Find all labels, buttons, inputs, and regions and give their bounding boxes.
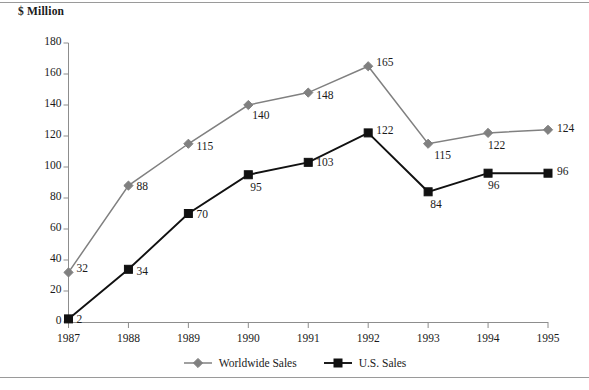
data-point-marker (543, 125, 552, 134)
y-axis-ticks (64, 43, 69, 322)
y-axis-tick-label: 100 (28, 159, 62, 171)
data-point-label: 88 (136, 180, 148, 192)
data-point-marker (364, 129, 372, 137)
x-axis-tick-label: 1988 (101, 332, 155, 344)
x-axis-tick-label: 1993 (401, 332, 455, 344)
data-point-marker (483, 128, 492, 137)
y-axis-tick-label: 40 (28, 252, 62, 264)
y-axis-tick-label: 60 (28, 221, 62, 233)
data-point-label: 32 (77, 262, 89, 274)
data-point-marker (484, 169, 492, 177)
data-point-label: 34 (136, 265, 148, 277)
x-axis-tick-label: 1994 (461, 332, 515, 344)
legend-square-marker-icon (323, 356, 353, 370)
data-point-label: 96 (557, 165, 569, 177)
data-point-marker (64, 268, 73, 277)
x-axis-tick-label: 1992 (341, 332, 395, 344)
y-axis-tick-label: 20 (28, 283, 62, 295)
data-point-label: 165 (376, 56, 393, 68)
x-axis-tick-label: 1995 (521, 332, 575, 344)
data-point-label: 124 (557, 122, 574, 134)
data-point-label: 148 (316, 89, 333, 101)
legend-item-label: U.S. Sales (359, 357, 407, 369)
data-point-label: 122 (488, 139, 505, 151)
data-point-marker (304, 158, 312, 166)
data-point-label: 122 (376, 124, 393, 136)
data-point-label: 2 (77, 313, 83, 325)
x-axis-tick-label: 1991 (281, 332, 335, 344)
data-point-label: 95 (250, 181, 262, 193)
data-point-marker (184, 210, 192, 218)
legend-item-label: Worldwide Sales (219, 357, 297, 369)
data-point-marker (304, 88, 313, 97)
legend-item[interactable]: Worldwide Sales (183, 356, 297, 370)
chart-legend: Worldwide SalesU.S. Sales (0, 356, 589, 370)
data-point-label: 70 (196, 208, 208, 220)
data-point-marker (184, 139, 193, 148)
x-axis-tick-label: 1989 (161, 332, 215, 344)
chart-figure: $ Million 020406080100120140160180198719… (0, 0, 589, 390)
data-point-label: 140 (252, 109, 269, 121)
data-point-label: 103 (316, 156, 333, 168)
data-point-marker (244, 171, 252, 179)
y-axis-tick-label: 180 (28, 35, 62, 47)
data-point-marker (124, 265, 132, 273)
data-point-marker (424, 188, 432, 196)
y-axis-tick-label: 140 (28, 97, 62, 109)
legend-item[interactable]: U.S. Sales (323, 356, 407, 370)
y-axis-tick-label: 0 (28, 314, 62, 326)
data-point-label: 96 (488, 179, 500, 191)
data-point-marker (544, 169, 552, 177)
x-axis-tick-label: 1990 (221, 332, 275, 344)
x-axis-tick-label: 1987 (42, 332, 96, 344)
y-axis-tick-label: 160 (28, 66, 62, 78)
data-series-group (64, 62, 553, 323)
data-point-marker (124, 181, 133, 190)
legend-diamond-marker-icon (183, 356, 213, 370)
y-axis-tick-label: 120 (28, 128, 62, 140)
data-point-label: 84 (430, 198, 442, 210)
data-point-label: 115 (196, 140, 213, 152)
y-axis-tick-label: 80 (28, 190, 62, 202)
data-point-label: 115 (434, 149, 451, 161)
data-point-marker (65, 315, 73, 323)
